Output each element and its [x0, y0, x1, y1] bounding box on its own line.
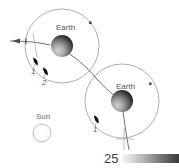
earth-sphere-second-encounter [111, 90, 133, 112]
satellite-marker-1-first-flyby-icon [33, 58, 38, 66]
sun-disc [33, 124, 51, 142]
trajectory-flyby-to-second-earth [60, 48, 121, 100]
trajectory-direction-arrow-icon [12, 38, 20, 43]
satellite-2-first-flyby-label: 2 [42, 79, 46, 87]
trajectory-crossing-tick-upper [33, 33, 37, 57]
satellite-1-first-flyby-label: 1 [31, 68, 35, 76]
earth-first-label: Earth [56, 24, 75, 32]
satellite-marker-2-first-flyby-icon [43, 68, 48, 76]
figure-canvas [0, 0, 179, 168]
scalebar-gradient [122, 154, 179, 163]
earth-sphere-first-encounter [51, 35, 73, 57]
orbit-position-marker-first-icon [89, 22, 92, 25]
satellite-1-second-flyby-label: 1 [93, 126, 97, 134]
orbit-position-marker-second-icon [149, 83, 152, 86]
earth-second-label: Earth [116, 83, 135, 91]
sun-label: Sun [36, 113, 50, 121]
orbital-trajectory-figure: Earth Earth Sun 1 2 1 25 [0, 0, 179, 168]
scalebar-value-label: 25 [104, 152, 118, 165]
